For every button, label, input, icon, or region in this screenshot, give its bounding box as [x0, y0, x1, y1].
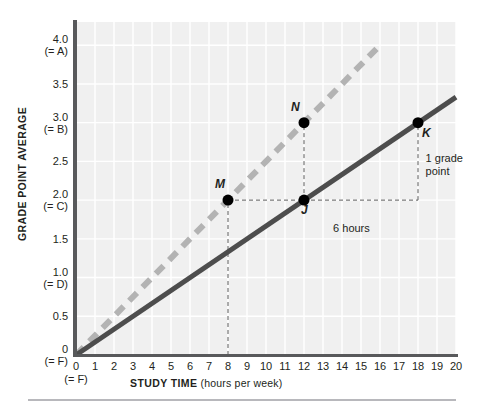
- x-tick-value: 5: [168, 360, 174, 372]
- x-tick-20: 20: [444, 360, 468, 373]
- data-point-M: [223, 195, 234, 206]
- x-tick-value: 10: [260, 360, 272, 372]
- x-tick-value: 16: [374, 360, 386, 372]
- x-tick-value: 8: [225, 360, 231, 372]
- x-tick-value: 4: [149, 360, 155, 372]
- x-tick-value: 19: [431, 360, 443, 372]
- rise-annotation-line2: point: [426, 165, 463, 178]
- x-tick-value: 7: [206, 360, 212, 372]
- x-tick-value: 15: [355, 360, 367, 372]
- chart-data-layer: [76, 22, 456, 355]
- x-tick-value: 12: [298, 360, 310, 372]
- y-tick-value: 4.0: [10, 33, 68, 45]
- y-tick-grade: (= D): [10, 278, 68, 290]
- y-tick-0-5: 0.5: [10, 310, 68, 322]
- footer-divider: [28, 399, 456, 401]
- point-label-J: J: [301, 203, 308, 217]
- plot-area: [76, 22, 456, 355]
- point-label-N: N: [291, 100, 300, 114]
- y-tick-grade: (= F): [10, 355, 68, 367]
- data-point-N: [299, 117, 310, 128]
- y-axis-title: GRADE POINT AVERAGE: [16, 74, 28, 274]
- series-solid-line: [76, 97, 456, 355]
- x-tick-value: 6: [187, 360, 193, 372]
- rise-annotation-line1: 1 grade: [426, 152, 463, 165]
- x-axis-title-main: STUDY TIME: [130, 377, 197, 389]
- x-tick-value: 18: [412, 360, 424, 372]
- point-label-K: K: [422, 126, 431, 140]
- x-tick-value: 14: [336, 360, 348, 372]
- x-tick-value: 11: [279, 360, 290, 372]
- x-axis-line: [73, 354, 458, 358]
- x-axis-title-unit: (hours per week): [201, 377, 283, 389]
- y-axis-line: [73, 20, 77, 357]
- x-tick-value: 9: [244, 360, 250, 372]
- x-axis-title: STUDY TIME (hours per week): [130, 377, 283, 389]
- x-tick-value: 1: [92, 360, 98, 372]
- run-annotation: 6 hours: [333, 222, 370, 235]
- y-tick-value: 0: [10, 343, 68, 355]
- rise-annotation: 1 gradepoint: [426, 152, 463, 177]
- x-tick-value: 20: [450, 360, 462, 372]
- point-label-M: M: [215, 177, 225, 191]
- x-tick-grade: (= F): [64, 373, 88, 386]
- x-tick-value: 17: [393, 360, 405, 372]
- y-tick-0: 0(= F): [10, 343, 68, 367]
- y-tick-4-0: 4.0(= A): [10, 33, 68, 57]
- x-tick-value: 0: [73, 360, 79, 372]
- y-tick-grade: (= A): [10, 45, 68, 57]
- x-tick-value: 13: [317, 360, 329, 372]
- chart-figure: 0(= F)0.51.0(= D)1.52.0(= C)2.53.0(= B)3…: [0, 0, 483, 411]
- y-tick-value: 0.5: [10, 310, 68, 322]
- x-tick-value: 2: [111, 360, 117, 372]
- x-tick-value: 3: [130, 360, 136, 372]
